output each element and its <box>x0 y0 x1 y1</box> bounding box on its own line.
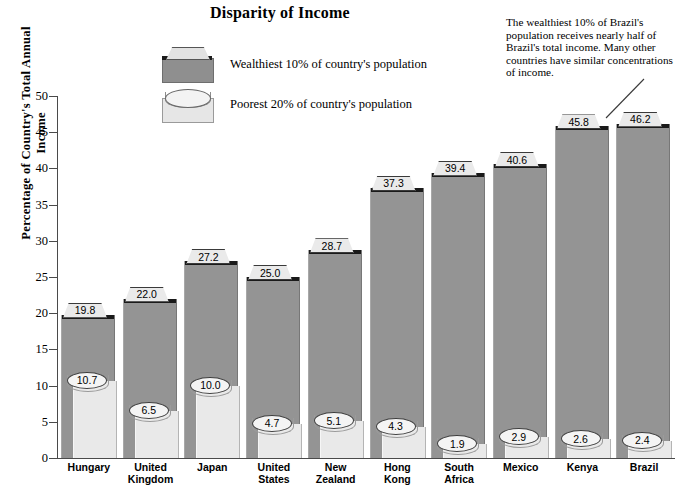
bar-value-label-wealthiest: 28.7 <box>310 238 354 253</box>
bar-value-label-wealthiest: 39.4 <box>433 161 477 176</box>
bar-value-label-poorest: 6.5 <box>129 402 169 419</box>
bar-value-label-wealthiest: 45.8 <box>557 114 601 129</box>
bar-value-label-wealthiest: 46.2 <box>618 112 662 127</box>
bar-group: 25.04.7 <box>244 96 301 458</box>
bar-value-label-poorest: 2.9 <box>499 428 539 445</box>
bar-group: 37.34.3 <box>368 96 425 458</box>
y-axis-tick-label: 25 <box>4 272 48 282</box>
y-axis-tick <box>49 168 57 169</box>
bar-wealthiest <box>493 164 547 458</box>
y-axis-tick-label: 5 <box>4 417 48 427</box>
plot-area: 19.810.722.06.527.210.025.04.728.75.137.… <box>58 96 675 458</box>
legend-label-wealthiest: Wealthiest 10% of country's population <box>230 57 427 72</box>
bar-group: 28.75.1 <box>306 96 363 458</box>
bar-value-label-poorest: 4.3 <box>376 418 416 435</box>
bar-value-label-poorest: 2.6 <box>561 430 601 447</box>
x-axis-tick-label: Brazil <box>609 462 676 474</box>
y-axis-tick <box>49 205 57 206</box>
y-axis-tick <box>49 386 57 387</box>
y-axis-tick <box>49 241 57 242</box>
bar-group: 45.82.6 <box>553 96 610 458</box>
x-axis-tick-label: UnitedStates <box>239 462 309 485</box>
y-axis-tick-label: 15 <box>4 344 48 354</box>
bar-value-label-wealthiest: 40.6 <box>495 152 539 167</box>
bar-poorest <box>73 381 117 458</box>
bar-value-label-poorest: 10.0 <box>190 377 230 394</box>
y-axis-tick-label: 40 <box>4 163 48 173</box>
y-axis-tick <box>49 313 57 314</box>
bar-value-label-wealthiest: 27.2 <box>186 249 230 264</box>
bar-value-label-wealthiest: 37.3 <box>372 176 416 191</box>
x-axis-tick-label: UnitedKingdom <box>116 462 186 485</box>
bar-value-label-wealthiest: 25.0 <box>248 265 292 280</box>
bar-group: 40.62.9 <box>491 96 548 458</box>
legend-item-wealthiest: Wealthiest 10% of country's population <box>160 44 427 84</box>
y-axis-tick <box>49 132 57 133</box>
bar-value-label-poorest: 10.7 <box>67 372 107 389</box>
x-axis-tick-label: Kenya <box>547 462 617 474</box>
bar-value-label-poorest: 5.1 <box>314 412 354 429</box>
x-axis-tick-label: NewZealand <box>301 462 371 485</box>
y-axis-tick-label: 50 <box>4 91 48 101</box>
chart-title: Disparity of Income <box>0 4 560 22</box>
y-axis-tick <box>49 277 57 278</box>
annotation-text: The wealthiest 10% of Brazil's populatio… <box>506 16 674 79</box>
x-axis-tick-labels: HungaryUnitedKingdomJapanUnitedStatesNew… <box>58 462 675 487</box>
bar-value-label-poorest: 2.4 <box>622 432 662 449</box>
x-axis-baseline <box>57 458 675 459</box>
y-axis-tick-labels: 50454035302520151050 <box>0 0 48 487</box>
x-axis-tick-label: SouthAfrica <box>424 462 494 485</box>
y-axis-tick <box>49 96 57 97</box>
bar-value-label-poorest: 4.7 <box>252 415 292 432</box>
x-axis-tick-label: Japan <box>177 462 247 474</box>
bar-wealthiest <box>555 126 609 458</box>
bar-group: 27.210.0 <box>182 96 239 458</box>
y-axis-tick-label: 20 <box>4 308 48 318</box>
x-axis-tick-label: Mexico <box>486 462 556 474</box>
bar-wealthiest <box>616 124 670 458</box>
bar-group: 22.06.5 <box>121 96 178 458</box>
y-axis-tick <box>49 349 57 350</box>
wealthy-bar-swatch-icon <box>160 46 214 82</box>
bar-group: 19.810.7 <box>59 96 116 458</box>
y-axis-tick <box>49 422 57 423</box>
bar-value-label-wealthiest: 19.8 <box>63 303 107 318</box>
y-axis-tick-label: 45 <box>4 127 48 137</box>
bar-wealthiest <box>431 173 485 458</box>
x-axis-tick-label: HongKong <box>362 462 432 485</box>
y-axis-tick-label: 30 <box>4 236 48 246</box>
bar-group: 39.41.9 <box>429 96 486 458</box>
y-axis-tick-label: 10 <box>4 381 48 391</box>
y-axis-tick-label: 0 <box>4 453 48 463</box>
x-axis-tick-label: Hungary <box>54 462 124 474</box>
bar-value-label-wealthiest: 22.0 <box>125 287 169 302</box>
bar-group: 46.22.4 <box>614 96 671 458</box>
y-axis-tick-label: 35 <box>4 200 48 210</box>
y-axis-tick <box>49 458 57 459</box>
